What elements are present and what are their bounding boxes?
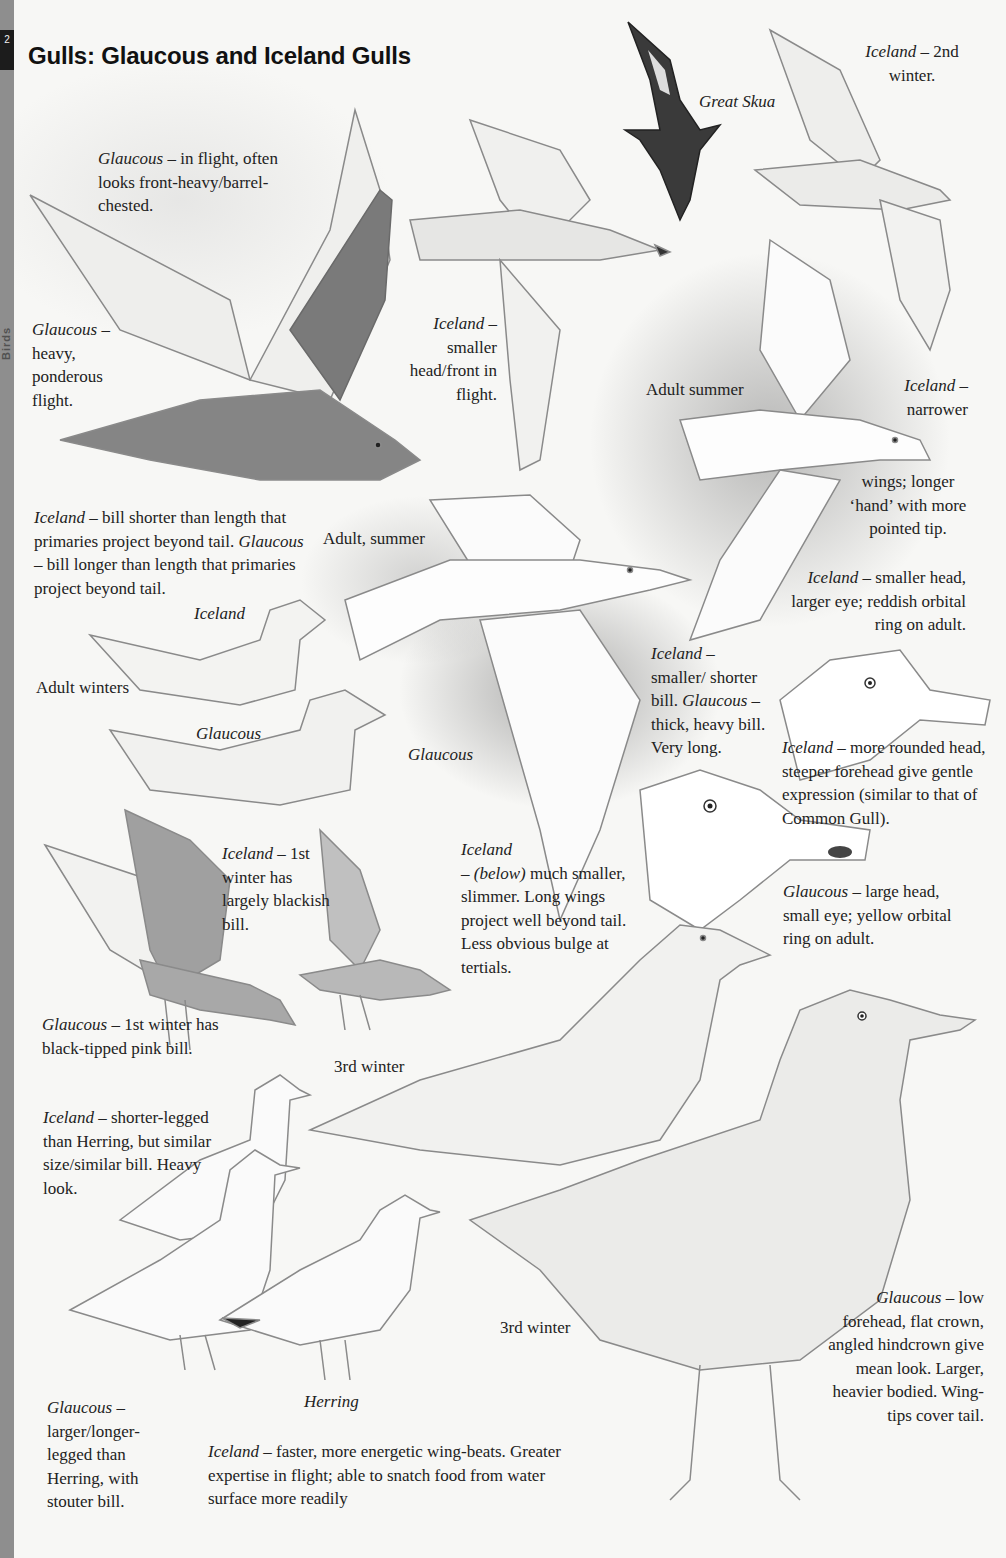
species-label: Glaucous (876, 1288, 941, 1307)
iceland-flight-illustration (410, 120, 670, 470)
note-iceland-2nd-winter: Iceland – 2nd winter. (846, 40, 978, 87)
glaucous-swimming-illustration (110, 690, 385, 805)
note-glaucous-heavy: Glaucous – heavy, ponderous flight. (32, 318, 124, 412)
note-iceland-smaller-head: Iceland – smaller head/front in flight. (405, 312, 497, 406)
label-adult-summer-right: Adult summer (646, 378, 744, 402)
species-label: Iceland (222, 844, 273, 863)
species-label: Iceland (865, 42, 916, 61)
note-iceland-1st-winter: Iceland – 1st winter has largely blackis… (222, 842, 334, 936)
label-iceland-swimming: Iceland (194, 602, 245, 626)
note-iceland-wingbeats: Iceland – faster, more energetic wing-be… (208, 1440, 580, 1511)
species-label: Glaucous (238, 532, 303, 551)
note-iceland-below: Iceland– (below) much smaller, slimmer. … (461, 838, 631, 979)
species-label: Iceland (651, 644, 702, 663)
note-text: – bill longer than length that primaries… (34, 555, 296, 598)
species-label: Herring (304, 1392, 359, 1411)
great-skua-illustration (625, 22, 720, 220)
note-iceland-smaller-eye: Iceland – smaller head, larger eye; redd… (788, 566, 966, 637)
species-label: Glaucous (783, 882, 848, 901)
note-glaucous-longer-legged: Glaucous – larger/longer-legged than Her… (47, 1396, 163, 1514)
label-herring: Herring (304, 1390, 359, 1414)
note-glaucous-1st-winter: Glaucous – 1st winter has black-tipped p… (42, 1013, 222, 1060)
note-text: – low forehead, flat crown, angled hindc… (828, 1288, 984, 1425)
note-bill-heads: Iceland – smaller/ shorter bill. Glaucou… (651, 642, 771, 760)
species-label: Iceland (433, 314, 484, 333)
species-label: Iceland (208, 1442, 259, 1461)
species-label: Great Skua (699, 92, 775, 111)
species-label: Iceland (807, 568, 858, 587)
note-glaucous-low-forehead: Glaucous – low forehead, flat crown, ang… (822, 1286, 984, 1427)
note-text: – faster, more energetic wing-beats. Gre… (208, 1442, 561, 1508)
species-label: Iceland (461, 840, 512, 859)
species-label: Glaucous (32, 320, 97, 339)
species-label: Iceland (904, 376, 955, 395)
label-3rd-winter-left: 3rd winter (334, 1055, 404, 1079)
note-iceland-narrower: Iceland – narrower (858, 374, 968, 421)
page-title: Gulls: Glaucous and Iceland Gulls (28, 42, 411, 70)
species-label: Glaucous (42, 1015, 107, 1034)
species-label: Glaucous (196, 724, 261, 743)
species-label: Glaucous (47, 1398, 112, 1417)
species-label: Iceland (194, 604, 245, 623)
label-3rd-winter-right: 3rd winter (500, 1316, 570, 1340)
note-glaucous-flight: Glaucous – in flight, often looks front-… (98, 147, 298, 218)
label-glaucous-swimming: Glaucous (196, 722, 261, 746)
label-glaucous-flying: Glaucous (408, 743, 473, 767)
species-label: Glaucous (408, 745, 473, 764)
species-label: Iceland (43, 1108, 94, 1127)
note-bill-comparison: Iceland – bill shorter than length that … (34, 506, 306, 600)
note-glaucous-large-head: Glaucous – large head, small eye; yellow… (783, 880, 973, 951)
note-qualifier: (below) (474, 864, 526, 883)
note-iceland-shorter-legged: Iceland – shorter-legged than Herring, b… (43, 1106, 239, 1200)
label-adult-summer-mid: Adult, summer (323, 527, 425, 551)
label-great-skua: Great Skua (699, 90, 775, 114)
species-label: Iceland (34, 508, 85, 527)
note-iceland-rounded-head: Iceland – more rounded head, steeper for… (782, 736, 1004, 830)
note-iceland-wings-continued: wings; longer ‘hand’ with more pointed t… (838, 470, 978, 541)
species-label: Glaucous (682, 691, 747, 710)
species-label: Iceland (782, 738, 833, 757)
species-label: Glaucous (98, 149, 163, 168)
label-adult-winters: Adult winters (36, 676, 129, 700)
